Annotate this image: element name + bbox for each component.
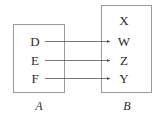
set-a-caption: A [29, 100, 49, 112]
set-a-element-d: D [27, 35, 43, 48]
set-a-element-e: E [27, 54, 43, 67]
set-b-element-w: W [116, 35, 132, 48]
set-a-element-f: F [27, 72, 43, 85]
set-b-element-y: Y [116, 72, 132, 85]
set-b-element-z: Z [116, 54, 132, 67]
mapping-diagram: D E F X W Z Y A B [0, 0, 162, 121]
set-b-element-x: X [116, 14, 132, 27]
set-b-caption: B [117, 100, 137, 112]
